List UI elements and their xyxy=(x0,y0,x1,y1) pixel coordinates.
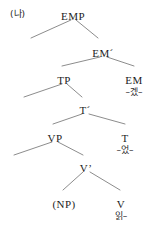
tree-node-label: T´ xyxy=(79,105,90,116)
syntax-tree-figure: (나) EMPEM´TPEMT´VPTV’(NP)V–겠––었–읽– xyxy=(0,0,160,231)
tree-branch-vp xyxy=(14,142,52,155)
tree-node-tp: TP xyxy=(57,75,71,86)
tree-branch-tbar xyxy=(89,114,125,124)
tree-terminal-v: 읽– xyxy=(115,212,128,221)
tree-node-v: V xyxy=(117,199,125,210)
tree-branch-emp xyxy=(31,20,71,38)
tree-node-label: EM xyxy=(125,75,142,86)
tree-node-label: EMP xyxy=(61,11,85,22)
tree-node-label: TP xyxy=(57,75,71,86)
tree-node-t: T xyxy=(121,133,128,144)
tree-branch-vbar xyxy=(90,172,120,190)
tree-node-prime-mark: ’ xyxy=(88,162,92,174)
tree-node-label: T xyxy=(121,133,128,144)
tree-node-tbar: T´ xyxy=(79,105,90,116)
tree-node-label: V xyxy=(117,199,125,210)
tree-node-prime-mark: ´ xyxy=(110,47,114,59)
tree-node-embar: EM´ xyxy=(92,48,113,59)
tree-branch-emp xyxy=(76,20,98,38)
tree-node-vp: VP xyxy=(48,133,63,144)
tree-node-vbar: V’ xyxy=(80,163,92,174)
tree-terminal-t: –었– xyxy=(117,146,134,155)
figure-enumeration-label: (나) xyxy=(10,10,25,19)
tree-node-np: (NP) xyxy=(53,199,76,210)
tree-node-label: V’ xyxy=(80,163,92,174)
tree-node-prime-mark: ´ xyxy=(87,104,91,116)
tree-node-em: EM xyxy=(125,75,142,86)
tree-node-label: EM´ xyxy=(92,48,113,59)
tree-branch-tbar xyxy=(53,114,82,124)
tree-branch-vbar xyxy=(63,172,83,190)
tree-node-label: VP xyxy=(48,133,63,144)
tree-node-emp: EMP xyxy=(61,11,85,22)
tree-node-label: (NP) xyxy=(53,199,76,210)
tree-terminal-em: –겠– xyxy=(126,88,143,97)
